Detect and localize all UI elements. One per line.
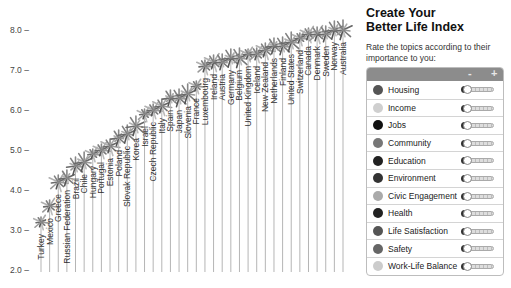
topic-label: Environment [388, 173, 436, 183]
slider-knob[interactable] [463, 156, 472, 165]
topic-row-housing: Housing [367, 81, 503, 99]
cross-icon [373, 208, 383, 218]
topic-label: Housing [388, 85, 419, 95]
topic-label: Health [388, 208, 413, 218]
topic-row-health: Health [367, 204, 503, 222]
slider-knob[interactable] [463, 192, 472, 201]
y-tick-label: 5.0 – [10, 145, 29, 155]
topic-label: Work-Life Balance [388, 261, 457, 271]
slider-knob[interactable] [463, 121, 472, 130]
topic-row-environment: Environment [367, 169, 503, 187]
topic-label: Income [388, 103, 416, 113]
slider-knob[interactable] [463, 209, 472, 218]
topic-row-income: Income [367, 99, 503, 117]
book-icon [373, 156, 383, 166]
topic-label: Life Satisfaction [388, 226, 448, 236]
topic-weight-slider[interactable] [461, 140, 495, 147]
topic-weight-slider[interactable] [461, 122, 495, 129]
panel-subtitle: Rate the topics according to their impor… [366, 42, 511, 64]
decrease-all-button[interactable]: - [468, 67, 472, 79]
topic-row-community: Community [367, 134, 503, 152]
country-label: Russian Federation [62, 190, 72, 264]
topic-label: Jobs [388, 120, 406, 130]
slider-knob[interactable] [463, 85, 472, 94]
y-tick-label: 6.0 – [10, 105, 29, 115]
topic-weight-slider[interactable] [461, 105, 495, 112]
slider-knob[interactable] [463, 262, 472, 271]
y-tick-label: 7.0 – [10, 65, 29, 75]
topic-label: Civic Engagement [388, 191, 457, 201]
slider-knob[interactable] [463, 139, 472, 148]
topic-weight-slider[interactable] [461, 245, 495, 252]
shield-icon [373, 244, 383, 254]
slider-knob[interactable] [463, 227, 472, 236]
house-icon [373, 85, 383, 95]
panel-title: Create Your Better Life Index [366, 6, 511, 34]
topic-weight-slider[interactable] [461, 228, 495, 235]
money-icon [373, 103, 383, 113]
slider-knob[interactable] [463, 104, 472, 113]
flower-chart: 2.0 –3.0 –4.0 –5.0 –6.0 –7.0 –8.0 –Turke… [0, 0, 360, 288]
chart-svg: 2.0 –3.0 –4.0 –5.0 –6.0 –7.0 –8.0 –Turke… [0, 0, 360, 288]
topic-label: Safety [388, 244, 412, 254]
panel-title-line1: Create Your [366, 6, 511, 20]
y-tick-label: 3.0 – [10, 225, 29, 235]
topic-label: Community [388, 138, 431, 148]
heart-icon [373, 226, 383, 236]
slider-knob[interactable] [463, 174, 472, 183]
topic-weight-slider[interactable] [461, 193, 495, 200]
country-label: Australia [338, 42, 348, 75]
better-life-index-panel: Create Your Better Life Index Rate the t… [366, 0, 511, 288]
topic-row-education: Education [367, 151, 503, 169]
topic-weight-slider[interactable] [461, 157, 495, 164]
slider-knob[interactable] [463, 244, 472, 253]
y-tick-label: 2.0 – [10, 265, 29, 275]
topics-box: - + HousingIncomeJobsCommunityEducationE… [366, 67, 504, 276]
topic-row-life-satisfaction: Life Satisfaction [367, 222, 503, 240]
topic-label: Education [388, 156, 426, 166]
increase-all-button[interactable]: + [491, 67, 497, 79]
y-tick-label: 8.0 – [10, 25, 29, 35]
leaf-icon [373, 173, 383, 183]
clock-icon [373, 261, 383, 271]
topic-weight-slider[interactable] [461, 86, 495, 93]
briefcase-icon [373, 120, 383, 130]
topic-weight-slider[interactable] [461, 210, 495, 217]
topic-row-jobs: Jobs [367, 116, 503, 134]
topic-row-safety: Safety [367, 239, 503, 257]
topic-row-civic-engagement: Civic Engagement [367, 187, 503, 205]
panel-title-line2: Better Life Index [366, 20, 511, 34]
topic-weight-slider[interactable] [461, 263, 495, 270]
people-icon [373, 138, 383, 148]
y-tick-label: 4.0 – [10, 185, 29, 195]
topic-row-work-life-balance: Work-Life Balance [367, 257, 503, 275]
topics-header: - + [367, 68, 503, 81]
ballot-icon [373, 191, 383, 201]
topic-weight-slider[interactable] [461, 175, 495, 182]
